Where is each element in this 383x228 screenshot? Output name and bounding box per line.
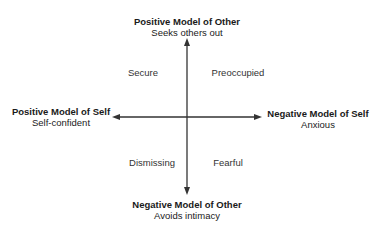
bottom-axis-subtitle: Avoids intimacy (154, 210, 220, 221)
quadrant-fearful: Fearful (213, 157, 243, 168)
right-axis-title: Negative Model of Self (267, 108, 368, 119)
top-axis-subtitle: Seeks others out (151, 27, 222, 38)
arrow-up-icon (184, 38, 190, 46)
right-axis-subtitle: Anxious (301, 119, 335, 130)
quadrant-dismissing: Dismissing (129, 157, 175, 168)
left-axis-title: Positive Model of Self (12, 106, 110, 117)
left-axis-subtitle: Self-confident (32, 117, 90, 128)
arrow-right-icon (254, 114, 262, 120)
arrow-left-icon (112, 114, 120, 120)
bottom-axis-title: Negative Model of Other (132, 199, 241, 210)
quadrant-preoccupied: Preoccupied (212, 67, 265, 78)
quadrant-secure: Secure (128, 67, 158, 78)
arrow-down-icon (184, 187, 190, 195)
top-axis-title: Positive Model of Other (134, 16, 240, 27)
